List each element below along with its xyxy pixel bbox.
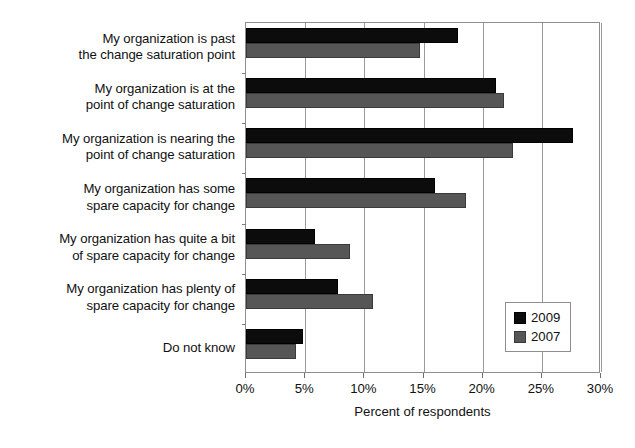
bar-2007-6 [246, 294, 373, 309]
bar-2009-5 [246, 229, 315, 244]
bar-2007-4 [246, 193, 466, 208]
bar-2007-3 [246, 143, 513, 158]
category-label-3: My organization is nearing thepoint of c… [8, 131, 235, 164]
x-axis-tick-20% [482, 373, 483, 378]
bar-2009-1 [246, 28, 458, 43]
legend-swatch-icon-2007 [514, 331, 526, 343]
category-label-line: My organization has quite a bit [8, 231, 235, 248]
category-label-line: My organization is past [8, 31, 235, 48]
bar-group-2 [246, 73, 601, 123]
legend-swatch-icon-2009 [514, 312, 526, 324]
category-label-line: My organization is at the [8, 81, 235, 98]
bar-2009-6 [246, 279, 338, 294]
bar-2009-7 [246, 329, 303, 344]
bar-group-3 [246, 123, 601, 173]
bar-2007-1 [246, 43, 420, 58]
category-label-5: My organization has quite a bitof spare … [8, 231, 235, 264]
category-label-1: My organization is pastthe change satura… [8, 31, 235, 64]
bar-group-4 [246, 173, 601, 223]
category-label-4: My organization has somespare capacity f… [8, 181, 235, 214]
y-axis-tick-1 [242, 73, 246, 74]
legend-item-2007: 2007 [514, 327, 560, 346]
category-label-7: Do not know [8, 340, 235, 357]
bar-2007-5 [246, 244, 350, 259]
x-axis-tick-25% [541, 373, 542, 378]
bar-2007-2 [246, 93, 504, 108]
bar-group-1 [246, 23, 601, 73]
y-axis-tick-6 [242, 324, 246, 325]
x-axis-tick-15% [423, 373, 424, 378]
x-axis-ticks [245, 373, 600, 378]
category-axis-labels: My organization is pastthe change satura… [8, 22, 241, 373]
x-axis-tick-5% [304, 373, 305, 378]
category-label-line: spare capacity for change [8, 298, 235, 315]
category-label-line: spare capacity for change [8, 198, 235, 215]
bar-2009-2 [246, 78, 496, 93]
bar-chart: My organization is pastthe change satura… [0, 0, 635, 448]
legend-label-2007: 2007 [531, 330, 560, 344]
y-axis-tick-5 [242, 274, 246, 275]
x-axis-tick-10% [363, 373, 364, 378]
x-axis-title: Percent of respondents [245, 404, 600, 419]
bar-2007-7 [246, 344, 296, 359]
x-axis-tick-0% [245, 373, 246, 378]
category-label-6: My organization has plenty ofspare capac… [8, 281, 235, 314]
x-axis-tick-label-25%: 25% [511, 381, 571, 396]
x-axis-tick-30% [600, 373, 601, 378]
legend-item-2009: 2009 [514, 308, 560, 327]
category-label-line: Do not know [8, 340, 235, 357]
category-label-line: the change saturation point [8, 47, 235, 64]
y-axis-tick-3 [242, 173, 246, 174]
x-axis-tick-label-0%: 0% [215, 381, 275, 396]
x-axis-tick-labels: 0%5%10%15%20%25%30% [205, 381, 635, 401]
x-axis-tick-label-10%: 10% [333, 381, 393, 396]
x-axis-tick-label-30%: 30% [570, 381, 630, 396]
category-label-line: My organization has plenty of [8, 281, 235, 298]
legend: 2009 2007 [505, 302, 571, 352]
category-label-line: point of change saturation [8, 147, 235, 164]
category-label-2: My organization is at thepoint of change… [8, 81, 235, 114]
legend-label-2009: 2009 [531, 311, 560, 325]
y-axis-tick-2 [242, 123, 246, 124]
category-label-line: My organization has some [8, 181, 235, 198]
y-axis-tick-4 [242, 224, 246, 225]
x-axis-tick-label-20%: 20% [452, 381, 512, 396]
bar-group-5 [246, 224, 601, 274]
category-label-line: of spare capacity for change [8, 248, 235, 265]
x-axis-tick-label-5%: 5% [274, 381, 334, 396]
x-axis-tick-label-15%: 15% [393, 381, 453, 396]
category-label-line: My organization is nearing the [8, 131, 235, 148]
bar-2009-4 [246, 178, 435, 193]
gridline-30% [601, 23, 602, 372]
bar-2009-3 [246, 128, 573, 143]
category-label-line: point of change saturation [8, 97, 235, 114]
